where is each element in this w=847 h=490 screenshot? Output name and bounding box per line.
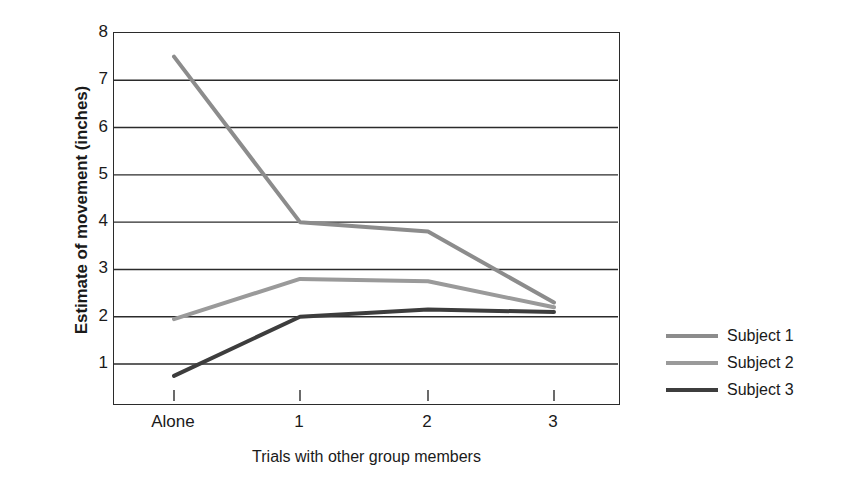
y-axis-tick-label: 5 — [86, 164, 108, 184]
x-axis-tick-labels: Alone123 — [0, 412, 847, 438]
y-axis-tick-label: 6 — [86, 117, 108, 137]
x-axis-tick-label: 1 — [294, 412, 303, 432]
legend-swatch-icon — [666, 361, 718, 365]
y-axis-tick-label: 3 — [86, 258, 108, 278]
series-lines — [174, 57, 554, 376]
chart-legend: Subject 1Subject 2Subject 3 — [666, 322, 841, 403]
series-line-subject-3 — [174, 310, 554, 376]
legend-item-subject-1[interactable]: Subject 1 — [666, 322, 841, 349]
legend-swatch-icon — [666, 334, 718, 338]
legend-item-subject-3[interactable]: Subject 3 — [666, 376, 841, 403]
x-axis-title: Trials with other group members — [113, 448, 620, 466]
legend-swatch-icon — [666, 388, 718, 392]
gridlines — [114, 80, 618, 401]
x-axis-tick-label: 2 — [422, 412, 431, 432]
legend-label: Subject 1 — [727, 327, 794, 345]
legend-label: Subject 3 — [727, 381, 794, 399]
x-axis-tick-label: Alone — [151, 412, 194, 432]
y-axis-tick-label: 4 — [86, 211, 108, 231]
plot-area — [113, 32, 620, 405]
x-axis-tick-label: 3 — [548, 412, 557, 432]
chart-page: Estimate of movement (inches) 87654321 A… — [0, 0, 847, 490]
y-axis-tick-label: 8 — [86, 22, 108, 42]
y-axis-tick-label: 7 — [86, 69, 108, 89]
y-axis-tick-label: 2 — [86, 306, 108, 326]
series-line-subject-1 — [174, 57, 554, 303]
chart-canvas — [114, 33, 618, 403]
legend-label: Subject 2 — [727, 354, 794, 372]
y-axis-tick-label: 1 — [86, 353, 108, 373]
legend-item-subject-2[interactable]: Subject 2 — [666, 349, 841, 376]
